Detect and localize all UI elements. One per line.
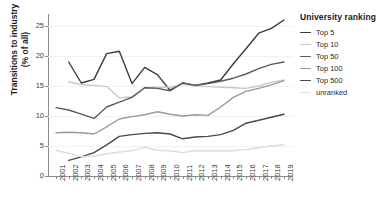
x-tick-mark bbox=[69, 176, 70, 179]
y-tick-label: 20 bbox=[18, 52, 44, 60]
series-line-unranked bbox=[56, 145, 284, 157]
y-tick-label: 25 bbox=[18, 22, 44, 30]
legend-swatch bbox=[300, 80, 311, 82]
series-lines bbox=[48, 14, 292, 176]
x-tick-mark bbox=[132, 176, 133, 179]
x-tick-mark bbox=[284, 176, 285, 179]
chart-figure: Transitions to industry (% of all) 05101… bbox=[0, 0, 392, 218]
x-tick-mark bbox=[208, 176, 209, 179]
y-axis-title-line2: (% of all) bbox=[19, 32, 29, 67]
legend-swatch bbox=[300, 92, 311, 94]
x-tick-mark bbox=[183, 176, 184, 179]
legend-label: Top 500 bbox=[316, 77, 343, 85]
legend-swatch bbox=[300, 32, 311, 34]
legend-item-unranked[interactable]: unranked bbox=[300, 87, 390, 98]
legend-label: Top 50 bbox=[316, 53, 339, 61]
series-line-top-10 bbox=[69, 80, 284, 98]
x-tick-mark bbox=[56, 176, 57, 179]
series-line-top-5 bbox=[69, 20, 284, 90]
x-tick-mark bbox=[107, 176, 108, 179]
legend-label: Top 10 bbox=[316, 41, 339, 49]
x-tick-mark bbox=[221, 176, 222, 179]
y-tick-mark bbox=[45, 176, 48, 177]
legend-item-top-10[interactable]: Top 10 bbox=[300, 39, 390, 50]
y-tick-label: 10 bbox=[18, 112, 44, 120]
x-tick-mark bbox=[259, 176, 260, 179]
x-tick-mark bbox=[246, 176, 247, 179]
legend-swatch bbox=[300, 68, 311, 70]
y-axis-title-line1: Transitions to industry bbox=[9, 4, 19, 96]
legend-label: Top 5 bbox=[316, 29, 334, 37]
legend-swatch bbox=[300, 56, 311, 58]
x-tick-mark bbox=[170, 176, 171, 179]
legend-swatch bbox=[300, 44, 311, 46]
x-tick-mark bbox=[145, 176, 146, 179]
legend-items: Top 5Top 10Top 50Top 100Top 500unranked bbox=[300, 27, 390, 98]
plot-area bbox=[48, 14, 292, 176]
y-tick-label: 15 bbox=[18, 82, 44, 90]
legend-item-top-100[interactable]: Top 100 bbox=[300, 63, 390, 74]
legend-item-top-50[interactable]: Top 50 bbox=[300, 51, 390, 62]
legend-item-top-500[interactable]: Top 500 bbox=[300, 75, 390, 86]
legend-label: unranked bbox=[316, 89, 347, 97]
legend: University ranking Top 5Top 10Top 50Top … bbox=[300, 12, 390, 99]
y-tick-label: 5 bbox=[18, 142, 44, 150]
legend-title: University ranking bbox=[300, 12, 390, 22]
legend-item-top-5[interactable]: Top 5 bbox=[300, 27, 390, 38]
y-tick-label: 0 bbox=[18, 172, 44, 180]
series-line-top-100 bbox=[56, 81, 284, 134]
x-tick-mark bbox=[94, 176, 95, 179]
series-line-top-500 bbox=[69, 114, 284, 160]
legend-label: Top 100 bbox=[316, 65, 343, 73]
